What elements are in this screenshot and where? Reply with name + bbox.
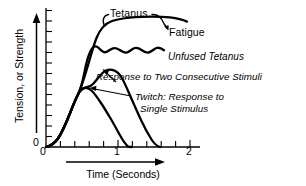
annotation-twitch-line2: Single Stimulus [140,104,208,115]
curve-twitch [46,88,132,147]
x-tick-label-2: 2 [186,145,192,157]
annotation-tetanus: Tetanus [110,8,147,19]
x-axis-label: Time (Seconds) [68,168,178,180]
y-axis-ticks [46,11,52,137]
annotation-twitch-line1: Twitch: Response to [135,92,224,103]
annotation-unfused-tetanus: Unfused Tetanus [168,52,244,63]
y-axis-label: Tension, or Strength [13,16,25,136]
muscle-tension-chart: Tension, or Strength Time (Seconds) 0 0 … [0,0,306,186]
annotation-fatigue: Fatigue [169,27,205,38]
y-axis-origin-label: 0 [33,136,39,148]
x-tick-label-1: 1 [114,145,120,157]
x-axis-arrow-icon [66,158,165,166]
leader-twitch [92,89,131,97]
y-axis-arrow-icon [33,13,41,133]
x-axis-origin-label: 0 [40,145,46,157]
annotation-two-stimuli: Response to Two Consecutive Stimuli [96,72,262,83]
